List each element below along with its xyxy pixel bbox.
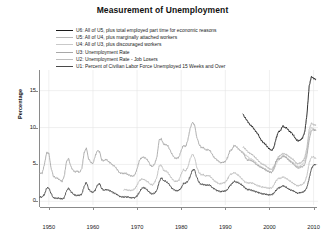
series-line-u2 [124, 155, 316, 192]
legend-label-u4: U4: All of U3, plus discouraged workers [76, 42, 161, 47]
legend-swatch-u3 [56, 52, 73, 53]
legend-swatch-u6 [56, 30, 73, 31]
y-tick-mark-10 [35, 128, 38, 129]
y-tick-10: 10 [20, 124, 36, 130]
legend-item-u4[interactable]: U4: All of U3, plus discouraged workers [56, 41, 322, 48]
x-tick-2000: 2000 [254, 224, 284, 230]
y-tick-mark-0 [35, 201, 38, 202]
legend-label-u1: U1: Percent of Civilian Labor Force Unem… [76, 64, 225, 69]
x-tick-1970: 1970 [122, 224, 152, 230]
x-tick-mark-2010 [314, 207, 315, 210]
legend-label-u5: U5: All of U4, plus marginally attached … [76, 35, 177, 40]
series-line-u6 [243, 76, 316, 150]
series-line-u3 [40, 122, 316, 182]
legend-label-u6: U6: All of U5, plus total employed part … [76, 28, 217, 33]
plot-lines [40, 70, 318, 205]
x-tick-1960: 1960 [78, 224, 108, 230]
x-tick-1980: 1980 [166, 224, 196, 230]
x-tick-mark-1970 [137, 207, 138, 210]
y-tick-mark-5 [35, 164, 38, 165]
x-tick-1990: 1990 [210, 224, 240, 230]
legend-item-u6[interactable]: U6: All of U5, plus total employed part … [56, 27, 322, 34]
legend-label-u3: U3: Unemployment Rate [76, 50, 130, 55]
plot-area [40, 70, 318, 205]
y-tick-5: 5 [20, 160, 36, 166]
legend-label-u2: U2: Unemployment Rate - Job Losers [76, 57, 158, 62]
y-axis-tick-labels: 151050 [16, 70, 36, 205]
y-tick-15: 15 [20, 87, 36, 93]
y-tick-0: 0 [20, 197, 36, 203]
legend-item-u5[interactable]: U5: All of U4, plus marginally attached … [56, 34, 322, 41]
legend-swatch-u2 [56, 59, 73, 60]
legend-item-u3[interactable]: U3: Unemployment Rate [56, 49, 322, 56]
x-tick-mark-2000 [269, 207, 270, 210]
legend-swatch-u5 [56, 37, 73, 38]
legend-swatch-u1 [56, 66, 73, 67]
chart-title: Measurement of Unemployment [0, 5, 325, 15]
x-axis-tick-labels: 1950196019701980199020002010 [40, 219, 318, 231]
legend-swatch-u4 [56, 44, 73, 45]
chart-legend: U6: All of U5, plus total employed part … [56, 27, 322, 70]
x-tick-mark-1980 [181, 207, 182, 210]
unemployment-chart: Measurement of Unemployment U6: All of U… [0, 0, 325, 240]
x-axis-line [40, 207, 317, 208]
x-tick-mark-1990 [225, 207, 226, 210]
legend-item-u2[interactable]: U2: Unemployment Rate - Job Losers [56, 56, 322, 63]
x-tick-2010: 2010 [299, 224, 325, 230]
y-tick-mark-15 [35, 91, 38, 92]
series-line-u4 [243, 127, 316, 173]
x-tick-mark-1950 [49, 207, 50, 210]
x-tick-1950: 1950 [34, 224, 64, 230]
x-tick-mark-1960 [93, 207, 94, 210]
